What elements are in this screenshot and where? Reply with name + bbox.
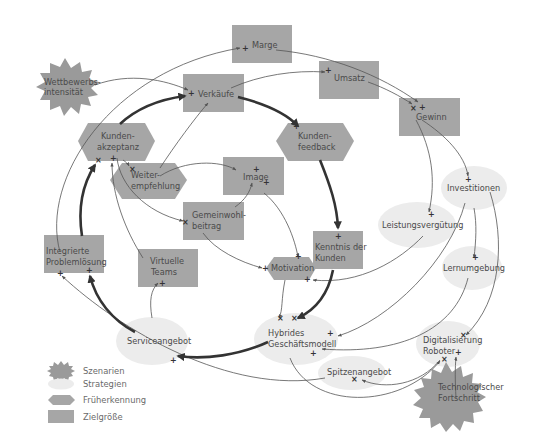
svg-text:+: +: [304, 275, 311, 284]
label-kundenakzeptanz-1: Kunden-: [101, 131, 135, 141]
label-image: Image: [243, 172, 269, 182]
label-serviceangebot: Serviceangebot: [127, 336, 192, 346]
svg-text:+: +: [419, 103, 426, 112]
svg-text:+: +: [262, 264, 269, 273]
label-hybrides-2: Geschäftsmodell: [268, 339, 336, 349]
svg-text:+: +: [325, 66, 332, 75]
svg-text:×: ×: [441, 355, 448, 364]
edge-hybrides-serviceangebot: [178, 342, 268, 357]
edge-verkaeufe-feedback: [238, 97, 298, 126]
label-technologischer-2: Fortschritt: [438, 393, 481, 403]
edge-integrierte-akzeptanz: [81, 165, 95, 236]
label-weiterempfehlung-2: empfehlung: [131, 181, 180, 191]
svg-text:+: +: [170, 356, 177, 365]
legend-label-strategien: Strategien: [83, 379, 127, 389]
edge-motivation-hybrides: [279, 280, 285, 318]
label-investitionen: Investitionen: [447, 183, 500, 193]
causal-loop-diagram: + + + × + + + + × + × × + + + + + + + × …: [0, 0, 533, 447]
svg-text:×: ×: [95, 156, 102, 165]
label-wettbewerb-2: intensität: [44, 87, 84, 97]
edge-akzeptanz-verkaeufe: [120, 96, 185, 124]
hexagon-icon: [48, 395, 75, 405]
legend-label-zielgroesse: Zielgröße: [83, 412, 123, 422]
label-integrierte-2: Problemlösung: [46, 257, 107, 267]
edge-weiter-verkaeufe: [160, 103, 208, 168]
label-integrierte-1: Integrierte: [46, 246, 89, 256]
svg-text:+: +: [327, 329, 334, 338]
legend-label-frueherkennung: Früherkennung: [83, 395, 146, 405]
svg-text:+: +: [428, 210, 435, 219]
label-kundenfeedback-2: feedback: [298, 142, 336, 152]
edge-serviceangebot-virtuelle: [151, 283, 158, 318]
legend-label-szenarien: Szenarien: [83, 366, 125, 376]
svg-text:+: +: [295, 252, 302, 261]
label-virtuelle-2: Teams: [150, 267, 177, 277]
label-lernumgebung: Lernumgebung: [443, 263, 505, 273]
svg-text:+: +: [188, 89, 195, 98]
label-wettbewerb-1: Wettbewerbs-: [44, 77, 101, 87]
svg-text:×: ×: [291, 314, 298, 323]
label-kenntnis-2: Kunden: [315, 253, 346, 263]
label-umsatz: Umsatz: [334, 73, 365, 83]
svg-text:×: ×: [182, 218, 189, 227]
svg-text:+: +: [242, 44, 249, 53]
legend: Szenarien Strategien Früherkennung Zielg…: [47, 361, 146, 423]
label-technologischer-1: Technologischer: [437, 382, 504, 392]
svg-text:+: +: [293, 122, 300, 131]
svg-text:+: +: [110, 154, 117, 163]
label-kenntnis-1: Kenntnis der: [315, 242, 367, 252]
svg-text:×: ×: [277, 314, 284, 323]
label-spitzenangebot: Spitzenangebot: [327, 367, 392, 377]
label-gewinn: Gewinn: [416, 112, 447, 122]
edge-image-motivation: [264, 193, 298, 257]
label-kundenakzeptanz-2: akzeptanz: [97, 142, 139, 152]
edge-wettbewerb-verkaeufe: [95, 78, 188, 90]
label-kundenfeedback-1: Kunden-: [298, 131, 332, 141]
svg-text:+: +: [310, 349, 317, 358]
label-digitalisierung-1: Digitalisierung: [423, 335, 482, 345]
label-marge: Marge: [252, 40, 278, 50]
label-hybrides-1: Hybrides: [268, 328, 304, 338]
svg-text:+: +: [455, 348, 462, 357]
ellipse-icon: [48, 379, 74, 390]
label-gemeinwohl-1: Gemeinwohl-: [192, 210, 246, 220]
label-gemeinwohl-2: beitrag: [192, 221, 221, 231]
svg-text:+: +: [57, 269, 64, 278]
svg-text:+: +: [472, 253, 479, 262]
svg-text:+: +: [86, 266, 93, 275]
label-motivation: Motivation: [271, 263, 314, 273]
edge-verkaeufe-umsatz: [231, 72, 325, 88]
label-verkaeufe: Verkäufe: [198, 89, 234, 99]
edge-feedback-kenntnis: [320, 160, 338, 228]
svg-text:+: +: [335, 232, 342, 241]
rectangle-icon: [48, 410, 74, 423]
label-digitalisierung-2: Roboter: [423, 346, 456, 356]
label-weiterempfehlung-1: Weiter-: [131, 170, 160, 180]
label-leistungsverguetung: Leistungsvergütung: [382, 220, 463, 230]
label-virtuelle-1: Virtuelle: [150, 256, 184, 266]
svg-text:+: +: [159, 279, 166, 288]
